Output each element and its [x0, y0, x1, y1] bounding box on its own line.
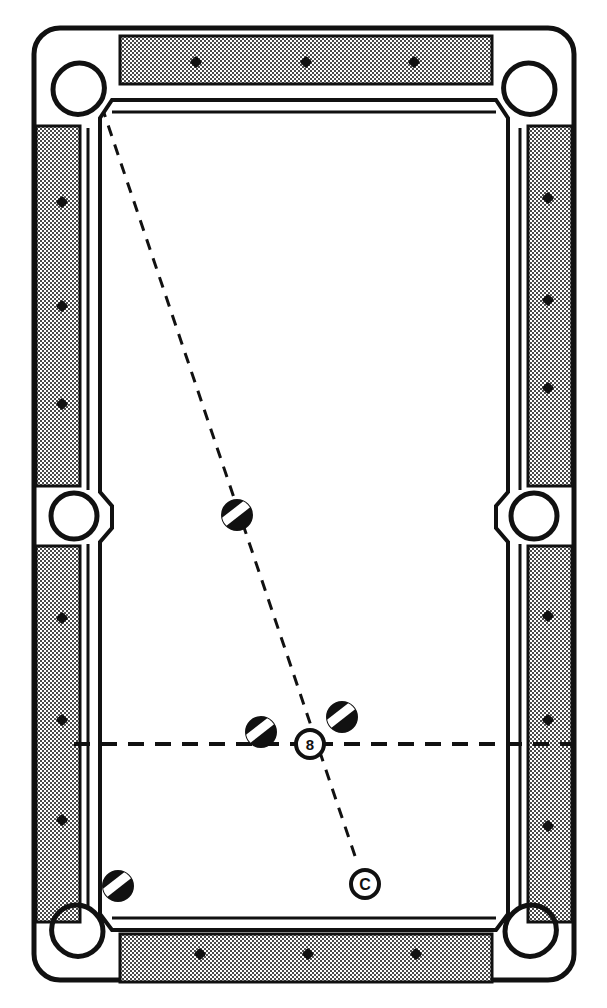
playfield-group	[88, 100, 520, 930]
cue-ball-label: C	[359, 876, 371, 893]
pool-table-diagram: 8 C	[0, 0, 607, 1008]
rails-group	[36, 36, 572, 982]
eight-ball-label: 8	[306, 736, 314, 753]
striped-ball-right-of-eight[interactable]	[320, 697, 362, 732]
table-outer-edge	[34, 28, 574, 980]
cushion-inner-boundary	[100, 100, 508, 930]
left-side-pocket[interactable]	[51, 493, 97, 539]
balls-group: 8 C	[96, 495, 379, 901]
right-side-pocket[interactable]	[511, 493, 557, 539]
table-frame	[34, 28, 574, 980]
striped-ball-lower-left[interactable]	[96, 866, 138, 901]
cue-ball[interactable]: C	[351, 870, 379, 898]
rail-right-upper	[528, 126, 572, 486]
pool-table-illustration: 8 C	[0, 0, 607, 1008]
eight-ball[interactable]: 8	[296, 730, 324, 758]
striped-ball-left-of-eight[interactable]	[239, 712, 281, 747]
rail-left-lower	[36, 546, 80, 922]
rail-right-lower	[528, 546, 572, 922]
striped-ball-upper[interactable]	[215, 495, 257, 530]
pockets-group	[41, 53, 567, 967]
